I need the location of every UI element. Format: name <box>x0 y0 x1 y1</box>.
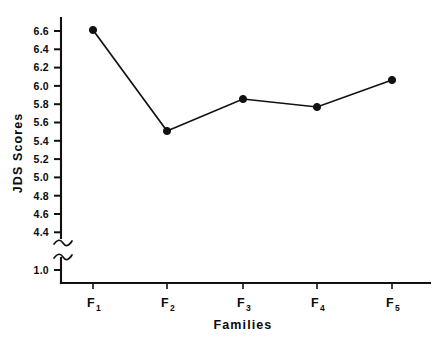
data-point-f4 <box>313 103 320 110</box>
x-axis-title: Families <box>214 318 273 332</box>
x-tick-sub-3: 4 <box>320 303 325 313</box>
x-tick-base-4: F <box>386 296 394 310</box>
x-tick-sub-0: 1 <box>96 303 101 313</box>
x-tick-sub-4: 5 <box>395 303 400 313</box>
x-tick-label-0: F 1 <box>87 296 101 313</box>
y-tick-label-6: 5.4 <box>34 135 50 147</box>
x-tick-label-4: F 5 <box>386 296 400 313</box>
series-line-jds <box>93 30 392 131</box>
y-tick-label-8: 5.0 <box>34 171 50 183</box>
axis-break-squiggle <box>54 240 72 259</box>
x-tick-sub-1: 2 <box>170 303 175 313</box>
x-tick-label-3: F 4 <box>311 296 325 313</box>
x-tick-base-3: F <box>311 296 319 310</box>
line-chart-figure: 6.6 6.4 6.2 6.0 5.8 5.6 5.4 5.2 5.0 4.8 … <box>0 0 439 338</box>
y-tick-label-4: 5.8 <box>34 98 50 110</box>
series-markers <box>89 26 395 134</box>
x-tick-base-1: F <box>161 296 169 310</box>
x-tick-label-1: F 2 <box>161 296 175 313</box>
x-tick-sub-2: 3 <box>246 303 251 313</box>
y-tick-label-9: 4.8 <box>34 190 50 202</box>
y-tick-label-3: 6.0 <box>34 80 50 92</box>
y-tick-label-2: 6.2 <box>34 61 50 73</box>
y-tick-label-5: 5.6 <box>34 116 50 128</box>
data-point-f5 <box>388 76 395 83</box>
chart-canvas: 6.6 6.4 6.2 6.0 5.8 5.6 5.4 5.2 5.0 4.8 … <box>0 0 439 338</box>
y-tick-label-1: 6.4 <box>34 43 50 55</box>
y-tick-label-10: 4.6 <box>34 208 50 220</box>
y-tick-label-7: 5.2 <box>34 153 50 165</box>
x-tick-label-2: F 3 <box>237 296 251 313</box>
x-tick-base-0: F <box>87 296 95 310</box>
y-tick-label-break: 1.0 <box>34 264 50 276</box>
x-tick-base-2: F <box>237 296 245 310</box>
data-point-f2 <box>163 127 170 134</box>
y-tick-label-0: 6.6 <box>34 25 50 37</box>
data-point-f1 <box>89 26 96 33</box>
data-point-f3 <box>239 95 246 102</box>
y-tick-label-11: 4.4 <box>34 226 50 238</box>
y-axis-title: JDS Scores <box>11 113 25 193</box>
